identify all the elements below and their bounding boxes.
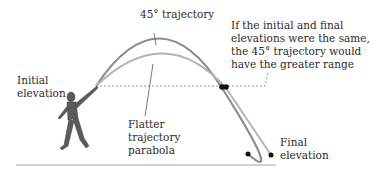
trajectory-45-curve <box>96 38 261 161</box>
label-45-trajectory: 45° trajectory <box>140 8 214 20</box>
label-flatter-line3: parabola <box>128 144 175 156</box>
leader-flatter-trajectory <box>145 64 153 116</box>
callout-line4: have the greater range <box>231 58 354 70</box>
label-final-elevation-line1: Final <box>280 136 307 148</box>
callout-line3: the 45° trajectory would <box>231 45 361 57</box>
intersection-dot-flat <box>223 84 229 90</box>
initial-elevation-dashed-line <box>96 73 268 86</box>
callout-line1: If the initial and final <box>231 19 343 31</box>
callout-line2: elevations were the same, <box>231 32 370 44</box>
label-initial-elevation-line2: elevation <box>17 87 66 99</box>
label-flatter-line1: Flatter <box>128 118 165 130</box>
label-flatter-line2: trajectory <box>128 131 180 143</box>
label-initial-elevation-line1: Initial <box>17 74 48 86</box>
landing-dot-flat <box>269 153 274 158</box>
landing-dot-45 <box>246 152 251 157</box>
label-final-elevation-line2: elevation <box>280 149 329 161</box>
